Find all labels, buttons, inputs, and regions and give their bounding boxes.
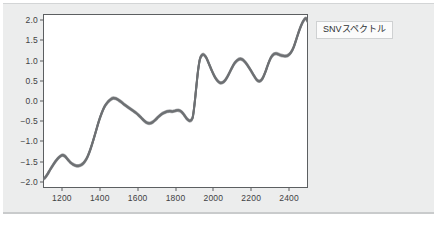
y-tick-mark bbox=[40, 161, 43, 162]
x-tick-label: 2000 bbox=[203, 193, 223, 203]
y-tick-label: 1.0 bbox=[26, 56, 38, 66]
y-tick-mark bbox=[40, 20, 43, 21]
figure-screenshot-root: 2.01.51.00.50.0−0.5−1.0−1.5−2.0 12001400… bbox=[0, 0, 437, 229]
y-tick-label: −2.0 bbox=[20, 177, 38, 187]
x-tick-mark bbox=[137, 188, 138, 191]
y-tick-label: −1.0 bbox=[20, 136, 38, 146]
spectrum-trace bbox=[43, 19, 308, 179]
y-tick-mark bbox=[40, 121, 43, 122]
x-tick-label: 1400 bbox=[90, 193, 110, 203]
y-tick-mark bbox=[40, 40, 43, 41]
y-tick-label: 1.5 bbox=[26, 35, 38, 45]
y-tick-label: 0.0 bbox=[26, 96, 38, 106]
legend-box: SNVスペクトル bbox=[316, 21, 393, 39]
x-tick-mark bbox=[213, 188, 214, 191]
x-tick-label: 1200 bbox=[52, 193, 72, 203]
x-tick-label: 2200 bbox=[241, 193, 261, 203]
y-tick-mark bbox=[40, 80, 43, 81]
y-tick-mark bbox=[40, 181, 43, 182]
legend-label: SNVスペクトル bbox=[323, 24, 386, 34]
y-tick-label: −0.5 bbox=[20, 116, 38, 126]
x-tick-label: 1800 bbox=[166, 193, 186, 203]
x-tick-mark bbox=[175, 188, 176, 191]
x-tick-mark bbox=[61, 188, 62, 191]
y-tick-label: 2.0 bbox=[26, 15, 38, 25]
x-tick-mark bbox=[251, 188, 252, 191]
spectrum-trace bbox=[43, 17, 308, 177]
y-tick-mark bbox=[40, 101, 43, 102]
snv-spectrum-figure-panel: 2.01.51.00.50.0−0.5−1.0−1.5−2.0 12001400… bbox=[3, 3, 434, 214]
plot-wrapper: 2.01.51.00.50.0−0.5−1.0−1.5−2.0 12001400… bbox=[43, 14, 308, 188]
spectrum-trace bbox=[43, 18, 308, 178]
y-tick-mark bbox=[40, 60, 43, 61]
y-tick-label: −1.5 bbox=[20, 157, 38, 167]
y-tick-mark bbox=[40, 141, 43, 142]
x-tick-mark bbox=[289, 188, 290, 191]
x-tick-label: 1600 bbox=[128, 193, 148, 203]
y-tick-label: 0.5 bbox=[26, 76, 38, 86]
spectrum-line-chart bbox=[43, 14, 308, 188]
spectrum-line-0 bbox=[43, 18, 308, 178]
x-tick-mark bbox=[99, 188, 100, 191]
spectrum-trace bbox=[43, 19, 308, 179]
x-tick-label: 2400 bbox=[279, 193, 299, 203]
